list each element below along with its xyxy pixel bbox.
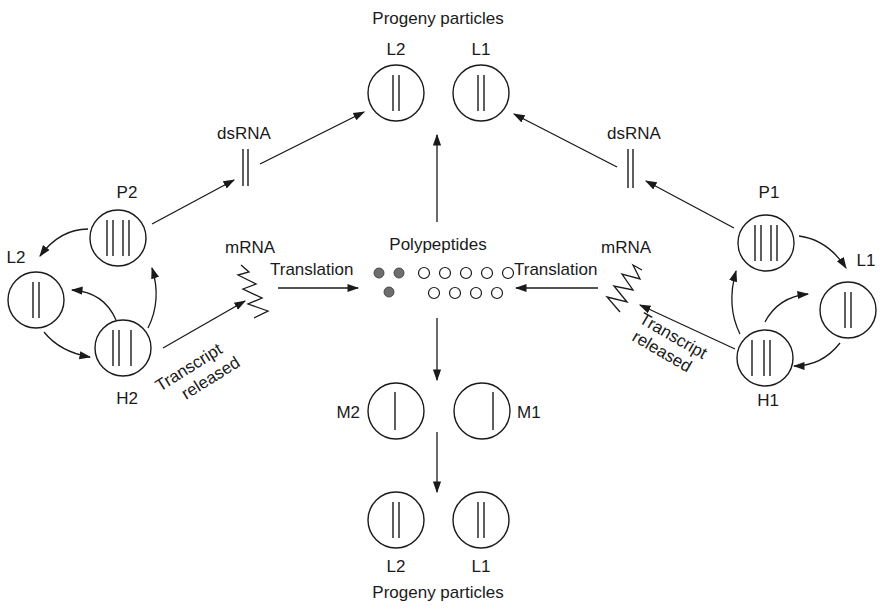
dsrna-right-label: dsRNA: [607, 124, 662, 143]
mrna-left-label: mRNA: [225, 238, 276, 257]
particle-label: L1: [472, 557, 491, 576]
polypeptides-label: Polypeptides: [389, 235, 486, 254]
arrow-p1-to-dsrna: [646, 181, 734, 228]
top-particle-l1: L1: [453, 40, 509, 121]
particle-label: M2: [336, 403, 360, 422]
particle-label: P2: [117, 183, 138, 202]
mrna-right-icon: [607, 265, 642, 312]
arrow-l2-to-h2: [44, 332, 90, 357]
replication-diagram: Progeny particles Progeny particles L2 L…: [0, 0, 883, 612]
particle-l2-left: L2: [7, 248, 64, 328]
particle-m2: M2: [336, 383, 424, 439]
particle-p1: P1: [738, 183, 794, 271]
arrow-h1-to-l1: [765, 294, 808, 322]
translation-right-label: Translation: [514, 260, 597, 279]
arrow-p2-to-dsrna: [152, 180, 234, 224]
arrow-dsrna-to-l1: [514, 114, 617, 167]
particle-label: L2: [387, 557, 406, 576]
particle-label: L2: [387, 40, 406, 59]
particle-h2: H2: [95, 320, 151, 408]
particle-label: P1: [759, 183, 780, 202]
arrow-p2-to-l2: [40, 229, 88, 256]
polypeptide-dots: [374, 268, 514, 299]
arrow-h2-to-p2: [148, 268, 156, 328]
top-particle-l2: L2: [368, 40, 424, 121]
particle-label: H1: [757, 391, 779, 410]
arrow-h1-to-p1: [732, 271, 740, 334]
bottom-particle-l1: L1: [453, 492, 509, 576]
dsrna-left-label: dsRNA: [217, 124, 272, 143]
particle-p2: P2: [90, 183, 146, 266]
particle-label: L1: [472, 40, 491, 59]
particle-l1-right: L1: [820, 251, 876, 338]
particle-label: L1: [857, 251, 876, 270]
arrow-dsrna-to-l2: [260, 112, 364, 164]
bottom-particle-l2: L2: [368, 492, 424, 576]
particle-label: M1: [517, 403, 541, 422]
arrow-p1-to-l1: [799, 236, 846, 268]
top-title: Progeny particles: [372, 9, 503, 28]
particle-label: H2: [116, 389, 138, 408]
bottom-title: Progeny particles: [372, 583, 503, 602]
particle-h1: H1: [737, 330, 793, 410]
mrna-left-icon: [238, 265, 268, 318]
translation-left-label: Translation: [270, 260, 353, 279]
arrow-h2-to-l2: [72, 290, 116, 320]
dsrna-left-icon: [243, 149, 248, 186]
arrow-h2-to-mrna: [163, 301, 245, 348]
particle-m1: M1: [454, 383, 541, 439]
particle-label: L2: [7, 248, 26, 267]
mrna-right-label: mRNA: [601, 238, 652, 257]
arrow-l1-to-h1: [794, 343, 840, 366]
dsrna-right-icon: [628, 149, 633, 188]
